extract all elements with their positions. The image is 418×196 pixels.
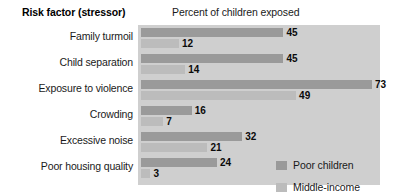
category-label: Exposure to violence [0, 82, 133, 94]
bar-value-label: 16 [195, 106, 206, 116]
bar-poor-children [141, 158, 217, 167]
bar-middle-income-children [141, 65, 185, 74]
legend-label: Middle-incomechildren [293, 181, 360, 195]
category-axis-labels: Family turmoilChild separationExposure t… [0, 25, 133, 185]
chart-header: Risk factor (stressor) Percent of childr… [0, 0, 418, 25]
bar-middle-income-children [141, 39, 179, 48]
bar-poor-children [141, 28, 283, 37]
chart-title: Percent of children exposed [172, 6, 299, 18]
bar-middle-income-children [141, 91, 296, 100]
bar-group: 4512 [138, 28, 380, 49]
bar-middle-income-children [141, 143, 207, 152]
bar-value-label: 32 [245, 132, 256, 142]
bar-chart-figure: Risk factor (stressor) Percent of childr… [0, 0, 418, 195]
bar-middle-income-children [141, 117, 163, 126]
bar-value-label: 12 [182, 39, 193, 49]
legend-label-line: children [293, 194, 360, 196]
chart-legend: Poor childrenMiddle-incomechildren [276, 159, 396, 195]
bar-value-label: 7 [166, 117, 172, 127]
bar-poor-children [141, 106, 192, 115]
bar-group: 167 [138, 106, 380, 127]
bar-value-label: 14 [188, 65, 199, 75]
bar-group: 7349 [138, 80, 380, 101]
category-label: Family turmoil [0, 30, 133, 42]
bar-poor-children [141, 132, 242, 141]
bar-poor-children [141, 80, 372, 89]
bar-value-label: 21 [210, 143, 221, 153]
plot-area: 4512451473491673221243 Poor childrenMidd… [138, 25, 380, 185]
category-label: Child separation [0, 56, 133, 68]
bar-value-label: 45 [286, 54, 297, 64]
legend-label: Poor children [293, 159, 354, 172]
bar-group: 3221 [138, 132, 380, 153]
legend-swatch-icon [276, 161, 287, 170]
bar-value-label: 3 [153, 169, 159, 179]
category-label: Crowding [0, 108, 133, 120]
bar-poor-children [141, 54, 283, 63]
bar-value-label: 45 [286, 28, 297, 38]
category-label: Excessive noise [0, 134, 133, 146]
bar-middle-income-children [141, 169, 150, 178]
bar-value-label: 73 [375, 80, 386, 90]
bar-value-label: 24 [220, 158, 231, 168]
risk-factor-column-heading: Risk factor (stressor) [22, 6, 125, 18]
bar-value-label: 49 [299, 91, 310, 101]
legend-label-line: Middle-income [293, 181, 360, 194]
legend-swatch-icon [276, 183, 287, 192]
bar-group: 4514 [138, 54, 380, 75]
category-label: Poor housing quality [0, 160, 133, 172]
